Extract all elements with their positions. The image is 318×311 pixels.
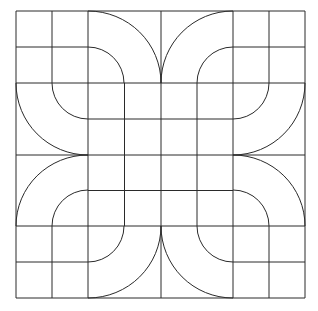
- inner-arc: [197, 226, 233, 262]
- outer-arc: [16, 155, 88, 226]
- inner-arc: [52, 83, 88, 119]
- outer-arc: [233, 155, 305, 226]
- inner-arc: [88, 226, 124, 262]
- inner-arc: [52, 190, 88, 226]
- inner-arc: [233, 83, 269, 119]
- outer-arc: [233, 83, 305, 155]
- outer-arc: [161, 226, 233, 298]
- quatrefoil-grid-pattern: [0, 0, 318, 311]
- outer-arc: [161, 11, 233, 83]
- inner-arc: [197, 47, 233, 83]
- outer-arc: [88, 226, 161, 298]
- grid-lines: [16, 11, 305, 298]
- outer-arc: [88, 11, 161, 83]
- inner-arc: [233, 190, 269, 226]
- inner-arc: [88, 47, 124, 83]
- outer-arc: [16, 83, 88, 155]
